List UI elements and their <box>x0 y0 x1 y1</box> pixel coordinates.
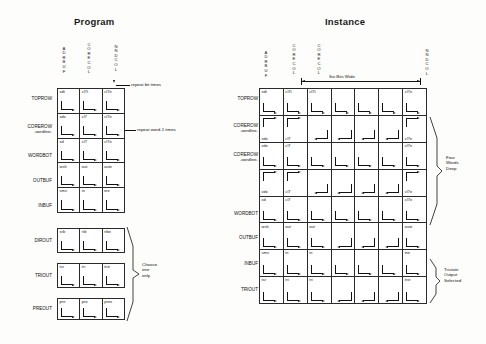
grid-cell[interactable]: xdx <box>58 114 80 139</box>
grid-cell[interactable]: xd <box>260 197 284 224</box>
grid-cell[interactable] <box>355 116 379 143</box>
grid-cell[interactable]: out <box>284 223 308 250</box>
grid-cell[interactable] <box>308 116 332 143</box>
grid-cell[interactable] <box>379 197 403 224</box>
corner-arrow-dr-icon <box>61 126 75 135</box>
grid-cell[interactable]: cl7 <box>80 114 102 139</box>
grid-cell[interactable] <box>332 170 356 197</box>
grid-cell[interactable] <box>308 197 332 224</box>
corner-arrow-dl-icon <box>314 130 328 139</box>
grid-cell[interactable]: oute <box>403 223 427 250</box>
grid-cell[interactable]: ribe <box>103 229 125 253</box>
grid-cell[interactable] <box>308 143 332 170</box>
grid-cell[interactable]: tri <box>80 264 102 288</box>
grid-cell[interactable] <box>332 143 356 170</box>
grid-cell[interactable]: trie <box>103 264 125 288</box>
grid-cell[interactable] <box>379 277 403 304</box>
grid-cell[interactable]: smv <box>58 188 80 213</box>
grid-cell[interactable]: cl7 <box>80 139 102 164</box>
program-rowlabel-dirout: DIROUT <box>8 238 52 243</box>
grid-cell[interactable]: cl7e <box>103 139 125 164</box>
grid-cell[interactable]: in <box>284 250 308 277</box>
grid-cell[interactable]: cl7e <box>103 89 125 114</box>
corner-arrow-dr-icon <box>61 200 75 209</box>
grid-cell[interactable]: out <box>308 223 332 250</box>
grid-cell[interactable] <box>379 143 403 170</box>
grid-cell[interactable] <box>355 223 379 250</box>
grid-cell[interactable]: pre <box>80 299 102 320</box>
grid-cell[interactable]: tsr <box>260 277 284 304</box>
grid-cell[interactable] <box>332 223 356 250</box>
grid-cell[interactable]: tsr <box>58 264 80 288</box>
grid-cell[interactable]: cl7 <box>284 116 308 143</box>
corner-arrow-dr-icon <box>287 103 301 112</box>
cell-label: cl7 <box>285 190 290 194</box>
grid-cell[interactable] <box>355 250 379 277</box>
grid-cell[interactable] <box>379 116 403 143</box>
corner-arrow-dr-icon <box>83 101 97 110</box>
grid-cell[interactable]: cl7e <box>403 170 427 197</box>
grid-cell[interactable] <box>379 250 403 277</box>
grid-cell[interactable] <box>332 116 356 143</box>
grid-cell[interactable]: xd <box>58 139 80 164</box>
grid-cell[interactable]: in <box>80 188 102 213</box>
grid-cell[interactable]: cl7t <box>80 89 102 114</box>
grid-cell[interactable]: pree <box>103 299 125 320</box>
grid-cell[interactable]: smv <box>260 250 284 277</box>
cell-label: cl7e <box>104 115 112 119</box>
grid-cell[interactable]: cl7 <box>284 143 308 170</box>
rowlabel-text: TOPROW <box>31 96 52 101</box>
program-rowlabel-corerow: COREROW -wordline- <box>8 124 52 134</box>
grid-cell[interactable]: cl7e <box>403 116 427 143</box>
grid-cell[interactable]: xdx <box>260 143 284 170</box>
grid-cell[interactable] <box>308 170 332 197</box>
grid-cell[interactable] <box>355 89 379 116</box>
grid-cell[interactable]: ine <box>103 188 125 213</box>
instance-rowlabel-outbuf: OUTBUF <box>212 235 258 240</box>
grid-cell[interactable] <box>379 170 403 197</box>
grid-cell[interactable] <box>332 89 356 116</box>
corner-arrow-dr-icon <box>287 238 301 247</box>
corner-arrow-dr-icon <box>106 176 120 185</box>
cell-label: xd <box>262 198 266 202</box>
grid-cell[interactable]: cl7t <box>284 89 308 116</box>
grid-cell[interactable]: in <box>308 250 332 277</box>
grid-cell[interactable]: xdt <box>58 89 80 114</box>
instance-rowlabel-inbuf: INBUF <box>212 261 258 266</box>
grid-cell[interactable]: srb <box>58 229 80 253</box>
grid-cell[interactable]: cl7e <box>403 197 427 224</box>
grid-cell[interactable]: trie <box>403 277 427 304</box>
grid-cell[interactable]: wsh <box>260 223 284 250</box>
grid-cell[interactable]: out <box>80 163 102 188</box>
grid-cell[interactable]: pre <box>58 299 80 320</box>
corner-arrow-dl-icon <box>385 130 399 139</box>
grid-cell[interactable]: cl7t <box>308 89 332 116</box>
grid-cell[interactable]: cl7 <box>284 197 308 224</box>
grid-cell[interactable]: cl7e <box>103 114 125 139</box>
grid-cell[interactable] <box>355 143 379 170</box>
grid-cell[interactable] <box>355 170 379 197</box>
grid-cell[interactable] <box>355 197 379 224</box>
grid-cell[interactable] <box>355 277 379 304</box>
grid-cell[interactable]: cl7 <box>284 170 308 197</box>
rowlabel-text: WORDBOT <box>28 153 52 158</box>
instance-rowlabel-wordbot: WORDBOT <box>212 211 258 216</box>
grid-cell[interactable]: xdx <box>260 116 284 143</box>
cell-label: tsr <box>60 265 65 269</box>
grid-cell[interactable]: wsh <box>58 163 80 188</box>
grid-cell[interactable]: tri <box>308 277 332 304</box>
grid-cell[interactable] <box>332 197 356 224</box>
program-rowlabel-triout: TRIOUT <box>8 273 52 278</box>
grid-cell[interactable]: cl7e <box>403 143 427 170</box>
grid-cell[interactable]: tri <box>284 277 308 304</box>
grid-cell[interactable]: xdt <box>260 89 284 116</box>
grid-cell[interactable]: xdx <box>260 170 284 197</box>
grid-cell[interactable]: cl7e <box>403 89 427 116</box>
grid-cell[interactable] <box>332 277 356 304</box>
grid-cell[interactable]: rib <box>80 229 102 253</box>
grid-cell[interactable]: oute <box>103 163 125 188</box>
grid-cell[interactable] <box>379 223 403 250</box>
grid-cell[interactable]: ine <box>403 250 427 277</box>
grid-cell[interactable] <box>332 250 356 277</box>
grid-cell[interactable] <box>379 89 403 116</box>
